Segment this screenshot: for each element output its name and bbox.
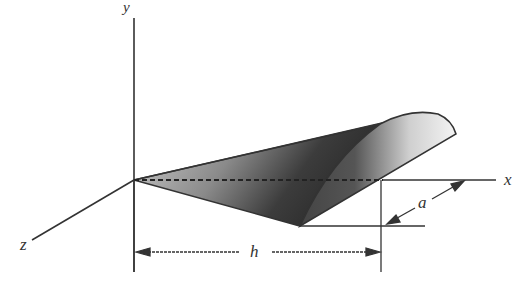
arrow-a-bottom [387,215,400,224]
diagram-canvas [0,0,518,290]
x-axis-label: x [504,171,512,188]
arrow-h-right [366,248,380,256]
arrow-a-top [451,181,464,191]
z-axis [32,180,134,240]
arrow-h-left [136,248,150,256]
y-axis-label: y [123,0,130,15]
z-axis-label: z [20,236,27,253]
h-dimension-label: h [250,243,259,260]
a-dimension-label: a [418,194,427,211]
